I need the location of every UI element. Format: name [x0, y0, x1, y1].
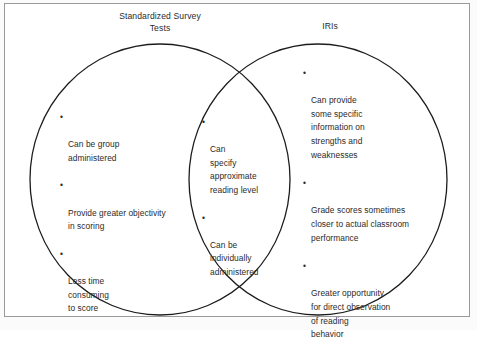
list-item-text: Can be individually administered: [210, 240, 259, 277]
bullet-dot-icon: •: [60, 179, 63, 193]
list-item-text: Greater opportunity for direct observati…: [311, 288, 390, 339]
right-only-bullet-list: • Can provide some specific information …: [303, 67, 453, 341]
venn-header-right-label: IRIs: [268, 21, 392, 33]
bullet-dot-icon: •: [60, 111, 63, 125]
bullet-dot-icon: •: [60, 248, 63, 262]
list-item: • Can specify approximate reading level: [202, 116, 276, 198]
list-item: • Grade scores sometimes closer to actua…: [303, 177, 453, 245]
list-item-text: Grade scores sometimes closer to actual …: [311, 205, 409, 242]
bullet-dot-icon: •: [202, 116, 205, 130]
list-item: • Less time consuming to score: [60, 248, 205, 316]
list-item-text: Can be group administered: [68, 139, 119, 163]
list-item-text: Can specify approximate reading level: [210, 144, 258, 195]
list-item: • Can be individually administered: [202, 212, 276, 280]
list-item: • Can provide some specific information …: [303, 67, 453, 162]
bullet-dot-icon: •: [202, 212, 205, 226]
bullet-dot-icon: •: [303, 177, 306, 191]
list-item-text: Less time consuming to score: [68, 276, 109, 313]
left-only-bullet-list: • Can be group administered • Provide gr…: [60, 111, 205, 316]
list-item-text: Can provide some specific information on…: [311, 95, 365, 159]
list-item: • Greater opportunity for direct observa…: [303, 260, 453, 341]
bullet-dot-icon: •: [303, 67, 306, 81]
list-item: • Can be group administered: [60, 111, 205, 165]
bullet-dot-icon: •: [303, 260, 306, 274]
overlap-bullet-list: • Can specify approximate reading level …: [202, 116, 276, 280]
list-item-text: Provide greater objectivity in scoring: [68, 208, 166, 232]
list-item: • Provide greater objectivity in scoring: [60, 179, 205, 233]
venn-header-left-label: Standardized Survey Tests: [88, 11, 232, 34]
